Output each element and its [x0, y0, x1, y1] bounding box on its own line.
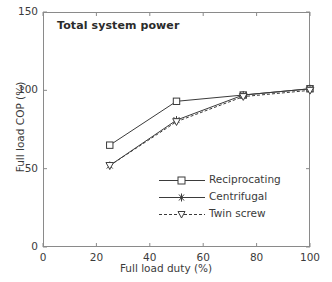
x-tick-label: 0: [28, 251, 58, 263]
legend-label-centrifugal: Centrifugal: [206, 190, 267, 202]
legend-label-reciprocating: Reciprocating: [206, 173, 281, 185]
legend-marker-square-icon: [158, 172, 206, 185]
x-tick-label: 100: [295, 251, 325, 263]
legend-item-reciprocating: Reciprocating: [158, 170, 298, 187]
y-tick-label: 100: [4, 83, 38, 95]
legend-label-twin-screw: Twin screw: [206, 207, 266, 219]
legend-item-centrifugal: Centrifugal: [158, 187, 298, 204]
x-tick-label: 60: [188, 251, 218, 263]
x-tick-label: 20: [81, 251, 111, 263]
chart-legend: Reciprocating Centrifugal Twin screw: [158, 170, 298, 221]
chart-title: Total system power: [57, 19, 179, 32]
y-tick-label: 50: [4, 162, 38, 174]
chart-container: Total system power Full load duty (%) Fu…: [0, 0, 332, 282]
legend-marker-triangle-icon: [158, 206, 206, 219]
y-tick-label: 150: [4, 5, 38, 17]
y-axis-label: Full load COP (%): [14, 47, 26, 207]
legend-item-twin-screw: Twin screw: [158, 204, 298, 221]
x-tick-label: 80: [242, 251, 272, 263]
legend-marker-cross-icon: [158, 189, 206, 202]
x-axis-label: Full load duty (%): [0, 262, 332, 274]
x-tick-label: 40: [135, 251, 165, 263]
